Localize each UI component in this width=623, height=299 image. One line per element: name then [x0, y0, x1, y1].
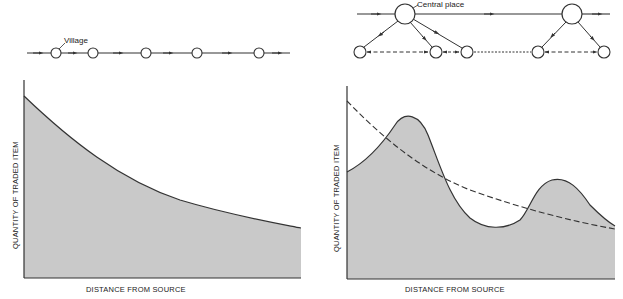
village-node — [598, 46, 610, 58]
central-place-network: Central place — [354, 0, 610, 58]
right-central-place-chart: QUANTITY OF TRADED ITEM DISTANCE FROM SO… — [332, 86, 615, 294]
village-chain-network: Village — [27, 36, 290, 58]
quantity-area — [347, 116, 615, 279]
arrow-icon — [590, 36, 593, 39]
village-node — [430, 46, 442, 58]
village-label: Village — [64, 36, 88, 45]
y-axis-label: QUANTITY OF TRADED ITEM — [332, 144, 341, 252]
diagram-canvas: Village Cen — [0, 0, 623, 299]
central-place-node — [562, 4, 582, 24]
arrow-icon — [380, 32, 384, 35]
village-node — [88, 48, 98, 58]
y-axis-label: QUANTITY OF TRADED ITEM — [11, 141, 20, 249]
quantity-area — [24, 96, 301, 278]
x-axis-label: DISTANCE FROM SOURCE — [405, 285, 505, 294]
village-node — [461, 46, 473, 58]
central-place-label: Central place — [417, 0, 465, 9]
left-falloff-chart: QUANTITY OF TRADED ITEM DISTANCE FROM SO… — [11, 80, 301, 294]
arrow-icon — [433, 31, 437, 33]
central-place-node — [395, 4, 415, 24]
village-node — [532, 46, 544, 58]
distribution-spoke — [410, 22, 432, 47]
village-node — [354, 46, 366, 58]
distribution-spoke — [578, 22, 600, 47]
village-node — [192, 48, 202, 58]
village-node — [51, 48, 61, 58]
arrow-icon — [422, 36, 425, 39]
village-node — [141, 48, 151, 58]
village-node — [254, 48, 264, 58]
x-axis-label: DISTANCE FROM SOURCE — [86, 285, 186, 294]
